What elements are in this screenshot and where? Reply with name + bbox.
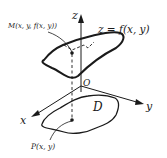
region-d	[42, 95, 119, 133]
surface-equation: z = f(x, y)	[97, 23, 150, 35]
surface-projection-diagram: z M(x, y, f(x, y)) z = f(x, y) O y x D P…	[0, 0, 167, 158]
y-axis-arrow-icon	[135, 99, 144, 105]
x-axis-arrow-icon	[31, 110, 40, 117]
point-p-leader	[50, 121, 72, 140]
point-m-label: M(x, y, f(x, y))	[7, 22, 57, 30]
y-axis-label: y	[145, 100, 153, 113]
point-p-label: P(x, y)	[30, 142, 55, 151]
region-d-label: D	[92, 100, 103, 114]
surface-patch	[42, 32, 123, 78]
z-axis-arrow-icon	[78, 14, 84, 23]
z-axis-label: z	[71, 9, 78, 22]
y-axis	[81, 86, 140, 103]
x-axis-label: x	[20, 114, 27, 127]
